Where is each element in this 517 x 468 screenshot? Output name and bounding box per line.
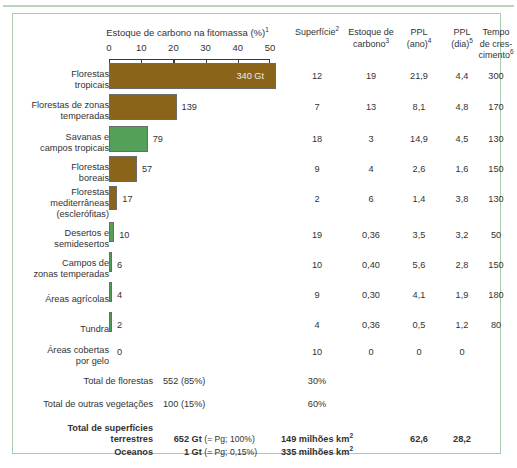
cell-ppl-dia: 4,4 [456, 71, 469, 81]
total-other-veg-superficie: 60% [308, 399, 326, 409]
cell-ppl-dia: 0 [459, 347, 464, 357]
axis-tick-labels: 01020304050 [109, 42, 294, 54]
cell-ppl-ano: 3,5 [413, 230, 426, 240]
cell-estoque-carbono: 6 [368, 194, 373, 204]
bar-value-label: 2 [117, 320, 122, 330]
cell-ppl-ano: 2,6 [413, 164, 426, 174]
bar-value-label: 10 [119, 230, 129, 240]
bar-6 [109, 222, 114, 242]
chart-inner: Estoque de carbono na fitomassa (%)1 010… [13, 14, 500, 453]
cell-ppl-ano: 8,1 [413, 102, 426, 112]
cell-tempo-crescimento: 80 [491, 320, 501, 330]
bar-8 [109, 282, 112, 302]
axis-tick-label-40: 40 [233, 42, 244, 53]
cell-estoque-carbono: 3 [368, 134, 373, 144]
cell-ppl-dia: 3,2 [456, 230, 469, 240]
chart-frame: Estoque de carbono na fitomassa (%)1 010… [12, 13, 501, 454]
total-other-veg-label: Total de outras vegetações [13, 399, 153, 410]
cell-estoque-carbono: 0 [368, 347, 373, 357]
total-forests-value: 552 (85%) [163, 376, 205, 386]
cell-tempo-crescimento: 300 [488, 71, 503, 81]
cell-tempo-crescimento: 150 [488, 164, 503, 174]
column-header-tempo-crescimento: Tempode cres-cimento6 [454, 27, 517, 62]
cell-tempo-crescimento: 130 [488, 194, 503, 204]
total-land-ppl-ano: 62,6 [410, 434, 428, 444]
bar-value-label: 79 [153, 134, 163, 144]
row-label: Áreas cobertaspor gelo [13, 345, 109, 367]
cell-ppl-ano: 5,6 [413, 260, 426, 270]
bar-value-label: 139 [182, 102, 197, 112]
cell-ppl-dia: 2,8 [456, 260, 469, 270]
cell-ppl-ano: 1,4 [413, 194, 426, 204]
axis-title-text: Estoque de carbono na fitomassa (%) [106, 27, 265, 38]
total-land-label: Total de superfíciesterrestres [13, 423, 153, 445]
total-land-superficie: 149 milhões km2 [281, 434, 353, 444]
cell-tempo-crescimento: 150 [488, 260, 503, 270]
cell-ppl-dia: 4,5 [456, 134, 469, 144]
axis-title: Estoque de carbono na fitomassa (%)1 [75, 27, 300, 38]
cell-superficie: 4 [314, 320, 319, 330]
row-label: Florestasmediterrâneas(esclerófitas) [13, 187, 109, 220]
cell-superficie: 9 [314, 290, 319, 300]
cell-estoque-carbono: 0,40 [362, 260, 380, 270]
cell-tempo-crescimento: 50 [491, 230, 501, 240]
cell-superficie: 10 [312, 347, 322, 357]
bar-value-label: 17 [122, 194, 132, 204]
cell-ppl-dia: 1,2 [456, 320, 469, 330]
axis-line [109, 59, 270, 60]
cell-estoque-carbono: 13 [366, 102, 376, 112]
cell-ppl-dia: 1,6 [456, 164, 469, 174]
cell-estoque-carbono: 0,36 [362, 320, 380, 330]
cell-superficie: 2 [314, 194, 319, 204]
row-label: Florestasboreais [13, 162, 109, 184]
cell-superficie: 9 [314, 164, 319, 174]
top-divider-rule [3, 5, 514, 7]
bar-9 [109, 312, 112, 332]
row-label: Savanas ecampos tropicais [13, 132, 109, 154]
bar-value-label: 57 [142, 164, 152, 174]
cell-estoque-carbono: 0,30 [362, 290, 380, 300]
cell-superficie: 18 [312, 134, 322, 144]
cell-superficie: 12 [312, 71, 322, 81]
row-label: Desertos esemidesertos [13, 228, 109, 250]
axis-tick-label-30: 30 [200, 42, 211, 53]
total-oceans-value: 1 Gt (= Pg; 0,15%) [163, 447, 257, 457]
row-label: Áreas agrícolas [13, 294, 109, 305]
axis-tick-label-20: 20 [168, 42, 179, 53]
cell-ppl-ano: 14,9 [410, 134, 428, 144]
bar-4 [109, 156, 137, 182]
row-label: Florestas de zonastemperadas [13, 100, 109, 122]
cell-superficie: 19 [312, 230, 322, 240]
cell-estoque-carbono: 19 [366, 71, 376, 81]
bar-2 [109, 94, 177, 120]
total-forests-label: Total de florestas [13, 376, 153, 387]
cell-estoque-carbono: 0,36 [362, 230, 380, 240]
cell-estoque-carbono: 4 [368, 164, 373, 174]
bar-value-label: 340 Gt [236, 71, 264, 81]
cell-ppl-ano: 0,5 [413, 320, 426, 330]
cell-ppl-ano: 4,1 [413, 290, 426, 300]
row-label: Tundra [13, 324, 109, 335]
bar-value-label: 4 [117, 290, 122, 300]
cell-tempo-crescimento: 170 [488, 102, 503, 112]
cell-ppl-dia: 1,9 [456, 290, 469, 300]
axis-tick-label-0: 0 [106, 42, 111, 53]
cell-ppl-ano: 0 [416, 347, 421, 357]
bar-3 [109, 126, 148, 152]
total-other-veg-value: 100 (15%) [163, 399, 205, 409]
cell-tempo-crescimento: 180 [488, 290, 503, 300]
cell-ppl-ano: 21,9 [410, 71, 428, 81]
bar-5 [109, 186, 117, 210]
cell-tempo-crescimento: 130 [488, 134, 503, 144]
cell-ppl-dia: 3,8 [456, 194, 469, 204]
bar-value-label: 6 [117, 260, 122, 270]
cell-superficie: 10 [312, 260, 322, 270]
total-land-value: 652 Gt (= Pg; 100%) [163, 434, 255, 444]
total-land-ppl-dia: 28,2 [453, 434, 471, 444]
row-label: Florestastropicais [13, 69, 109, 91]
axis-tick-label-50: 50 [265, 42, 276, 53]
cell-superficie: 7 [314, 102, 319, 112]
bar-7 [109, 252, 112, 272]
total-forests-superficie: 30% [308, 376, 326, 386]
total-oceans-superficie: 335 milhões km2 [281, 447, 353, 457]
